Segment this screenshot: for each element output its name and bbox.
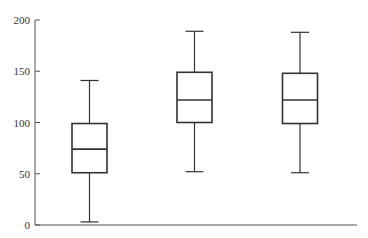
y-tick-label: 150 bbox=[14, 65, 31, 77]
y-tick-label: 100 bbox=[14, 117, 31, 129]
box-group-1 bbox=[72, 80, 107, 221]
iqr-box bbox=[283, 73, 318, 123]
iqr-box bbox=[72, 124, 107, 173]
y-tick-label: 50 bbox=[19, 168, 31, 180]
boxes bbox=[72, 31, 318, 222]
y-tick-label: 0 bbox=[25, 219, 31, 231]
y-tick-label: 200 bbox=[14, 14, 31, 26]
iqr-box bbox=[177, 72, 212, 122]
y-axis: 050100150200 bbox=[14, 14, 41, 231]
box-plot-chart: 050100150200 bbox=[0, 0, 368, 238]
box-group-2 bbox=[177, 31, 212, 171]
box-group-3 bbox=[283, 32, 318, 172]
